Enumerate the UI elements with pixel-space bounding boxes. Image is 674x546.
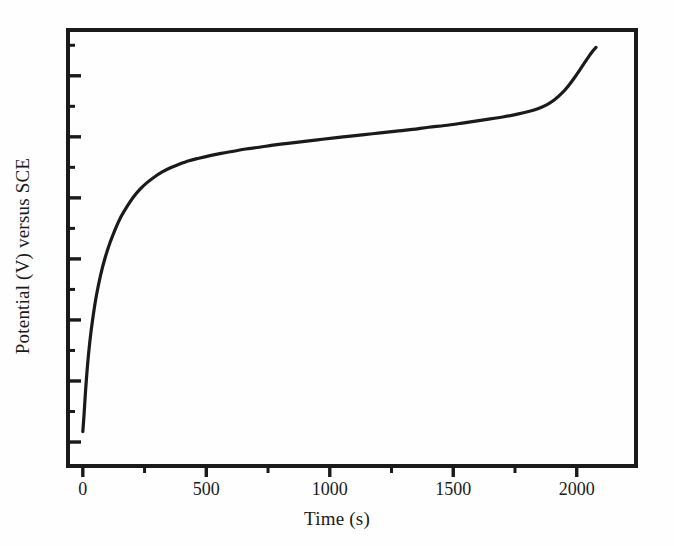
x-axis-tick-label: 1000	[312, 479, 348, 500]
data-series-line	[83, 47, 596, 431]
x-axis-tick-label: 0	[78, 479, 87, 500]
x-axis-tick-label: 2000	[559, 479, 595, 500]
x-axis-tick-label: 1500	[435, 479, 471, 500]
chart-canvas	[0, 0, 674, 546]
x-axis-tick-label: 500	[193, 479, 220, 500]
y-axis-title: Potential (V) versus SCE	[10, 36, 36, 476]
y-axis-title-wrapper: Potential (V) versus SCE	[10, 36, 36, 476]
figure-container: 0500100015002000 Time (s) Potential (V) …	[0, 0, 674, 546]
x-axis-title: Time (s)	[0, 508, 674, 530]
plot-frame	[68, 30, 636, 466]
